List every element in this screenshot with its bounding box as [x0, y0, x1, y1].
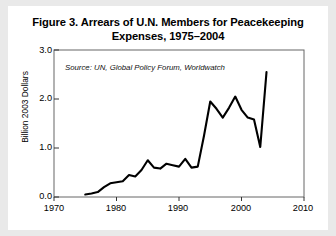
chart-plot-area: Billion 2003 Dollars 3.0 2.0 1.0 0.0 197…: [8, 6, 328, 230]
chart-svg: [8, 6, 328, 230]
y-axis-tick-marks: [54, 50, 59, 197]
data-series-line: [85, 72, 266, 195]
figure-card: Figure 3. Arrears of U.N. Members for Pe…: [8, 6, 328, 230]
x-axis-tick-marks: [54, 197, 304, 201]
